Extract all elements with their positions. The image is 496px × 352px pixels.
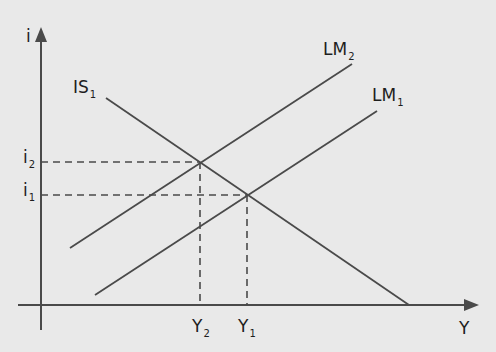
is1-label-main: IS bbox=[73, 77, 89, 97]
lm2-label-main: LM bbox=[323, 39, 347, 59]
lm2-label-subscript: 2 bbox=[348, 51, 354, 62]
background bbox=[0, 0, 496, 352]
islm-diagram: i Y IS1 LM2 LM1 i2 i1 Y2 Y1 bbox=[0, 0, 496, 352]
y1-label-main: Y bbox=[237, 316, 249, 336]
x-axis-label: Y bbox=[458, 318, 470, 338]
diagram-canvas: i Y IS1 LM2 LM1 i2 i1 Y2 Y1 bbox=[0, 0, 496, 352]
lm1-label-main: LM bbox=[372, 85, 396, 105]
y-axis-label: i bbox=[26, 26, 31, 46]
y2-label-main: Y bbox=[191, 316, 203, 336]
i2-label-main: i bbox=[23, 147, 28, 167]
i2-label-subscript: 2 bbox=[29, 159, 35, 170]
i1-label-subscript: 1 bbox=[29, 192, 35, 203]
y2-label-subscript: 2 bbox=[203, 328, 209, 339]
is1-label-subscript: 1 bbox=[90, 89, 96, 100]
i1-label-main: i bbox=[23, 180, 28, 200]
lm1-label-subscript: 1 bbox=[397, 97, 403, 108]
y1-label-subscript: 1 bbox=[249, 328, 255, 339]
